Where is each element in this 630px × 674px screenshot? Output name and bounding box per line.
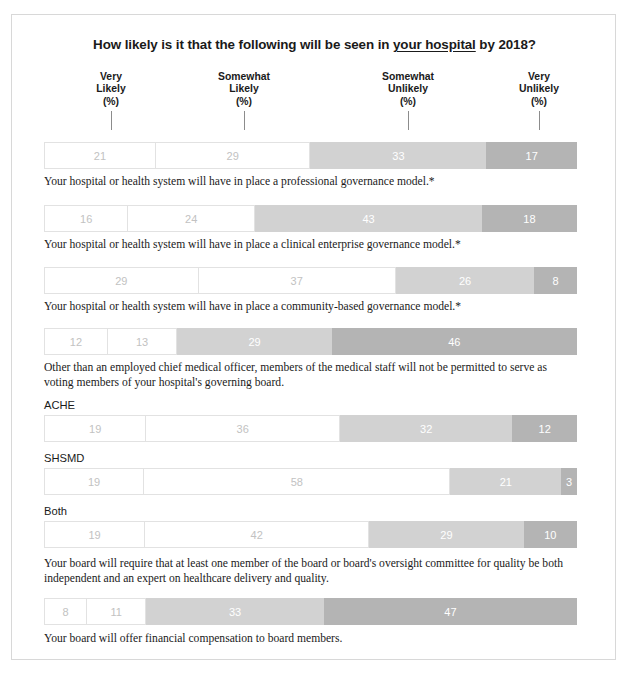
bar-segment-somewhat-unlikely: 21 [450,468,561,495]
bar-segment-very-likely: 19 [44,521,145,548]
column-header-leader-line [111,111,112,130]
stacked-bar-row: 16244318 [44,205,577,232]
bar-segment-somewhat-likely: 36 [146,415,340,442]
bar-segment-somewhat-unlikely: 26 [396,267,535,294]
column-header-1: VeryLikely(%) [51,71,171,108]
bar-segment-somewhat-likely: 37 [199,267,396,294]
stacked-bar-row: 2937268 [44,267,577,294]
bar-segment-somewhat-likely: 42 [145,521,369,548]
column-header-line1: Very [479,71,599,83]
column-header-leader-line [408,111,409,130]
bar-segment-very-likely: 19 [44,468,144,495]
bar-segment-very-likely: 16 [44,205,128,232]
bar-segment-very-likely: 19 [44,415,146,442]
bar-segment-somewhat-likely: 58 [144,468,450,495]
bar-segment-very-unlikely: 10 [524,521,577,548]
bar-caption: Your hospital or health system will have… [44,238,577,253]
stacked-bar-row: 8113347 [44,598,577,625]
column-header-line1: Very [51,71,171,83]
bar-segment-very-unlikely: 18 [482,205,577,232]
bar-segment-very-likely: 12 [44,328,108,355]
stacked-bar-row: 12132946 [44,328,577,355]
bar-caption: Your hospital or health system will have… [44,300,577,315]
bar-caption: Your board will require that at least on… [44,557,577,586]
bar-segment-very-unlikely: 17 [486,142,577,169]
column-header-4: VeryUnlikely(%) [479,71,599,108]
column-header-line2: Likely [184,83,304,95]
column-header-leader-line [244,111,245,130]
column-header-leader-line [539,111,540,130]
bar-segment-very-unlikely: 8 [534,267,577,294]
column-header-line2: Likely [51,83,171,95]
bar-segment-somewhat-unlikely: 33 [146,598,324,625]
series-label-shsmd: SHSMD [44,452,84,464]
chart-frame: How likely is it that the following will… [11,14,616,660]
bar-segment-very-likely: 21 [44,142,156,169]
bar-segment-somewhat-unlikely: 29 [177,328,332,355]
column-header-3: SomewhatUnlikely(%) [348,71,468,108]
series-label-both: Both [44,505,67,517]
bar-caption: Your board will offer financial compensa… [44,632,577,647]
column-header-line2: Unlikely [348,83,468,95]
column-header-percent: (%) [51,96,171,108]
column-header-2: SomewhatLikely(%) [184,71,304,108]
bar-segment-somewhat-likely: 29 [156,142,311,169]
bar-caption: Other than an employed chief medical off… [44,361,577,390]
bar-segment-very-likely: 8 [44,598,87,625]
bar-segment-somewhat-unlikely: 32 [340,415,512,442]
bar-segment-somewhat-likely: 24 [128,205,255,232]
stacked-bar-row: 1958213 [44,468,577,495]
bar-segment-very-unlikely: 3 [561,468,577,495]
series-label-ache: ACHE [44,399,75,411]
bar-segment-somewhat-likely: 13 [108,328,177,355]
bar-segment-somewhat-unlikely: 33 [310,142,486,169]
bar-segment-somewhat-likely: 11 [87,598,146,625]
bar-segment-very-unlikely: 46 [332,328,577,355]
column-header-line1: Somewhat [184,71,304,83]
bar-segment-very-unlikely: 12 [512,415,577,442]
column-header-percent: (%) [479,96,599,108]
column-header-line2: Unlikely [479,83,599,95]
column-header-percent: (%) [348,96,468,108]
bar-segment-very-unlikely: 47 [324,598,577,625]
bar-segment-very-likely: 29 [44,267,199,294]
bar-segment-somewhat-unlikely: 29 [369,521,524,548]
stacked-bar-row: 19363212 [44,415,577,442]
column-header-percent: (%) [184,96,304,108]
column-header-row: VeryLikely(%)SomewhatLikely(%)SomewhatUn… [12,15,617,85]
column-header-line1: Somewhat [348,71,468,83]
bar-caption: Your hospital or health system will have… [44,175,577,190]
bar-segment-somewhat-unlikely: 43 [255,205,482,232]
stacked-bar-row: 21293317 [44,142,577,169]
stacked-bar-row: 19422910 [44,521,577,548]
